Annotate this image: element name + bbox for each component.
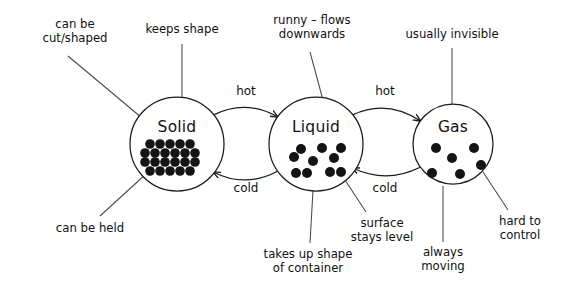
particle: [170, 148, 180, 158]
arrow-liquid-to-solid: [214, 171, 278, 180]
particle: [325, 167, 335, 177]
state-circle-liquid[interactable]: [269, 97, 363, 191]
annotation-line: usually invisible: [405, 27, 498, 41]
particle: [140, 148, 150, 158]
particle: [180, 157, 190, 167]
state-label-solid: Solid: [158, 118, 197, 136]
particle: [160, 157, 170, 167]
particle: [190, 157, 200, 167]
particle: [175, 166, 185, 176]
particle: [447, 153, 457, 163]
particle: [165, 139, 175, 149]
leader-line-surface-stays-level: [345, 180, 366, 212]
transition-label-liquid-to-solid: cold: [234, 181, 259, 195]
particle: [476, 160, 486, 170]
annotation-line: runny – flows: [273, 13, 350, 27]
particle: [329, 153, 339, 163]
annotation-line: keeps shape: [145, 22, 218, 36]
annotation-can-be-held: can be held: [56, 221, 124, 235]
annotation-line: cut/shaped: [42, 31, 107, 45]
annotation-line: downwards: [279, 27, 345, 41]
annotation-line: control: [500, 228, 541, 242]
annotation-line: always: [423, 245, 463, 259]
transition-label-solid-to-liquid: hot: [236, 84, 256, 98]
particle: [308, 156, 318, 166]
particle: [302, 168, 312, 178]
particle: [170, 157, 180, 167]
transition-label-gas-to-liquid: cold: [373, 181, 398, 195]
annotation-line: surface: [360, 216, 403, 230]
states-of-matter-diagram: SolidLiquidGas hotcoldhotcold can becut/…: [0, 0, 563, 288]
arrow-liquid-to-gas: [353, 108, 421, 121]
particle: [289, 152, 299, 162]
particle: [469, 143, 479, 153]
particle: [455, 169, 465, 179]
state-label-gas: Gas: [438, 118, 468, 136]
arrow-solid-to-liquid: [214, 107, 278, 116]
annotation-can-be-cut-shaped: can becut/shaped: [42, 17, 107, 45]
particle: [317, 143, 327, 153]
particle: [291, 168, 301, 178]
particle: [150, 148, 160, 158]
particle: [145, 166, 155, 176]
annotation-line: stays level: [351, 230, 413, 244]
particle: [140, 157, 150, 167]
annotation-line: can be held: [56, 221, 124, 235]
arrow-gas-to-liquid: [353, 167, 421, 176]
particle: [296, 144, 306, 154]
particle: [145, 139, 155, 149]
particle: [155, 139, 165, 149]
particle: [150, 157, 160, 167]
leader-line-can-be-held: [100, 174, 146, 216]
annotation-usually-invisible: usually invisible: [405, 27, 498, 41]
annotation-line: of container: [273, 261, 344, 275]
particle: [431, 143, 441, 153]
particle: [165, 166, 175, 176]
annotation-line: moving: [421, 259, 465, 273]
transition-label-liquid-to-gas: hot: [375, 84, 395, 98]
state-label-liquid: Liquid: [292, 118, 340, 136]
leader-line-can-be-cut-shaped: [68, 56, 142, 118]
particle: [160, 148, 170, 158]
leader-line-takes-up-shape-of-container: [310, 190, 313, 243]
particle: [336, 167, 346, 177]
annotation-keeps-shape: keeps shape: [145, 22, 218, 36]
annotation-takes-up-shape-of-container: takes up shapeof container: [264, 247, 353, 275]
leader-line-runny-flows-downwards: [310, 52, 323, 100]
particle: [180, 148, 190, 158]
particle: [185, 166, 195, 176]
particle: [190, 148, 200, 158]
particle: [185, 139, 195, 149]
particle: [427, 168, 437, 178]
annotation-surface-stays-level: surfacestays level: [351, 216, 413, 244]
annotation-always-moving: alwaysmoving: [421, 245, 465, 273]
particle: [155, 166, 165, 176]
annotation-runny-flows-downwards: runny – flowsdownwards: [273, 13, 350, 41]
particle: [175, 139, 185, 149]
diagram-canvas: SolidLiquidGas hotcoldhotcold can becut/…: [0, 0, 563, 288]
particle: [336, 143, 346, 153]
annotation-line: takes up shape: [264, 247, 353, 261]
state-circle-gas[interactable]: [413, 104, 493, 184]
leader-line-hard-to-control: [483, 172, 508, 210]
annotation-hard-to-control: hard tocontrol: [499, 214, 541, 242]
annotation-line: can be: [55, 17, 94, 31]
annotation-line: hard to: [499, 214, 541, 228]
